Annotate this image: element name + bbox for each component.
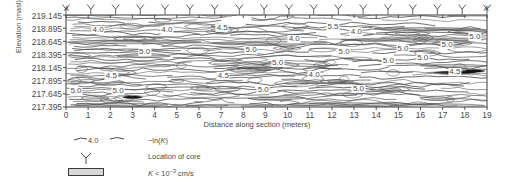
core-marker-icon: [161, 5, 168, 15]
contour-value-label: 5.0: [112, 87, 125, 95]
legend-label-lnk: −ln(K): [148, 136, 168, 145]
contour-value-label: 5.0: [271, 59, 284, 67]
contour-line-sample-icon: [110, 138, 124, 140]
legend-label-core: Location of core: [148, 152, 201, 161]
x-axis-title: Distance along section (meters): [0, 120, 514, 129]
contour-value-label: 5.0: [396, 45, 409, 53]
core-marker-icon: [360, 5, 367, 15]
x-tick-label: 2: [108, 111, 113, 119]
x-tick-label: 0: [64, 111, 69, 119]
x-tick-label: 3: [130, 111, 135, 119]
legend: 4.0 −ln(K) Location of core K < 10−3 cm/…: [0, 131, 514, 187]
x-tick-label: 16: [416, 111, 425, 119]
core-marker-icon: [335, 5, 342, 15]
core-marker-icon: [409, 5, 416, 15]
legend-label-lowk: K < 10−3 cm/s: [148, 168, 194, 178]
x-tick-label: 18: [460, 111, 469, 119]
x-tick-label: 17: [438, 111, 447, 119]
low-k-zone: [186, 104, 275, 107]
contour-value-label: 5.0: [352, 85, 365, 93]
x-tick-label: 4: [152, 111, 157, 119]
figure-contour-cross-section: Elevation (masl) 219.145 218.895 218.645…: [0, 0, 514, 187]
x-tick-label: 9: [263, 111, 268, 119]
x-tick-label: 1: [86, 111, 91, 119]
contour-value-label: 5.0: [468, 33, 481, 41]
contour-value-label: 4.0: [350, 28, 363, 36]
x-tick-label: 7: [219, 111, 224, 119]
legend-symbols: [0, 131, 514, 187]
contour-value-label: 4.5: [216, 24, 229, 32]
x-tick-label: 10: [283, 111, 292, 119]
contour-value-label: 4.0: [160, 26, 173, 34]
x-tick-label: 13: [349, 111, 358, 119]
x-tick-label: 11: [305, 111, 314, 119]
core-marker-icon: [434, 5, 441, 15]
core-marker-group: [62, 5, 490, 15]
core-marker-icon: [260, 5, 267, 15]
contour-value-label: 5.0: [338, 48, 351, 56]
core-marker-icon: [112, 5, 119, 15]
x-tick-label: 5: [174, 111, 179, 119]
x-tick-label: 19: [482, 111, 491, 119]
x-tick-label: 8: [241, 111, 246, 119]
contour-value-label: 5.0: [382, 57, 395, 65]
x-tick-label: 14: [372, 111, 381, 119]
contour-value-label: 4.5: [105, 72, 118, 80]
low-k-zone: [248, 97, 306, 100]
core-marker-icon: [384, 5, 391, 15]
contour-value-label: 5.5: [326, 23, 339, 31]
core-marker-icon: [186, 5, 193, 15]
core-marker-icon: [137, 5, 144, 15]
core-marker-icon: [211, 5, 218, 15]
core-marker-icon: [236, 5, 243, 15]
contour-value-label: 5.0: [244, 46, 257, 54]
x-tick-label: 15: [394, 111, 403, 119]
core-marker-icon: [62, 5, 69, 15]
core-marker-icon: [285, 5, 292, 15]
core-marker-icon: [310, 5, 317, 15]
contour-value-label: 5.0: [257, 86, 270, 94]
core-marker-icon: [81, 153, 91, 164]
x-tick-label: 12: [327, 111, 336, 119]
contour-value-label: 5.0: [69, 87, 82, 95]
contour-value-label: 4.5: [448, 68, 461, 76]
contour-value-label: 4.5: [217, 72, 230, 80]
contour-line-sample-icon: [74, 138, 87, 140]
core-marker-icon: [459, 5, 466, 15]
x-tick-label: 6: [197, 111, 202, 119]
contour-value-label: 4.0: [92, 26, 105, 34]
contour-value-label: 5.0: [441, 41, 454, 49]
core-marker-icon: [87, 5, 94, 15]
contour-value-label: 5.0: [416, 54, 429, 62]
contour-value-label: 4.0: [288, 35, 301, 43]
contour-value-label: 5.0: [138, 48, 151, 56]
legend-line-value: 4.0: [88, 136, 98, 145]
core-marker-icon: [483, 5, 490, 15]
contour-value-label: 4.0: [308, 71, 321, 79]
low-k-swatch-icon: [68, 168, 104, 176]
very-low-k-zone: [463, 70, 485, 73]
